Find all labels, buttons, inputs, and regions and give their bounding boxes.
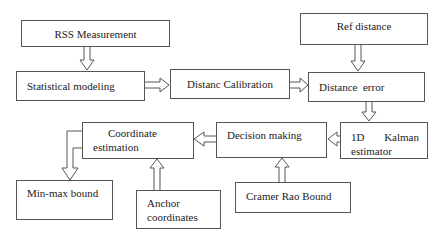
node-statistical-modeling: Statistical modeling: [16, 71, 145, 101]
node-label-line2: estimator: [351, 144, 427, 158]
node-label: Statistical modeling: [27, 79, 115, 93]
node-label: Ref distance: [337, 19, 392, 33]
node-ref-distance: Ref distance: [300, 13, 428, 45]
arrow-calib-to-err: [290, 78, 308, 92]
arrow-decision-to-coord: [194, 132, 216, 146]
arrow-stat-to-calib: [145, 78, 169, 92]
node-label-line1: Anchor: [147, 196, 220, 210]
node-distance-error: Distance error: [308, 72, 425, 102]
node-distance-calibration: Distanc Calibration: [170, 69, 290, 99]
node-decision-making: Decision making: [216, 122, 327, 158]
node-label: Decision making: [227, 128, 326, 142]
node-label-line2: coordinates: [147, 210, 220, 224]
node-label-line2: estimation: [93, 140, 193, 154]
node-label: Distanc Calibration: [187, 77, 273, 91]
node-label: Min-max bound: [27, 186, 112, 200]
node-rss-measurement: RSS Measurement: [21, 20, 170, 47]
node-label: Distance error: [319, 80, 384, 94]
node-kalman-estimator: 1D Kalman estimator: [340, 122, 428, 159]
arrow-coord-to-minmax: [62, 131, 82, 180]
node-coordinate-estimation: Coordinate estimation: [82, 122, 194, 159]
node-anchor-coordinates: Anchor coordinates: [136, 190, 221, 229]
node-label: Cramer Rao Bound: [246, 189, 350, 203]
arrow-kalman-to-decision: [328, 132, 340, 146]
node-min-max-bound: Min-max bound: [16, 180, 113, 220]
arrow-crb-to-decision: [275, 158, 289, 182]
node-label-line1: 1D Kalman: [351, 130, 427, 144]
node-cramer-rao-bound: Cramer Rao Bound: [235, 182, 351, 213]
arrow-rss-to-stat: [80, 46, 94, 70]
arrow-err-to-kalman: [362, 102, 376, 121]
arrow-ref-to-err: [351, 45, 365, 71]
arrow-anchor-to-coord: [150, 159, 164, 190]
node-label-line1: Coordinate: [93, 126, 193, 140]
node-label: RSS Measurement: [54, 27, 136, 41]
